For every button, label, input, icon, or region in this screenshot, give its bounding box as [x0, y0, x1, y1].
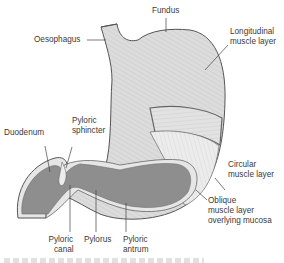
label-pylorus: Pylorus [84, 235, 111, 245]
label-pyloric-antrum: Pyloric antrum [123, 235, 148, 255]
label-pyloric-sphincter: Pyloric sphincter [72, 116, 105, 136]
label-circular-muscle: Circular muscle layer [228, 160, 274, 180]
label-oblique-muscle: Oblique muscle layer overlying mucosa [208, 196, 272, 226]
stomach-diagram: Fundus Oesophagus Longitudinal muscle la… [0, 0, 284, 263]
label-fundus: Fundus [152, 6, 179, 16]
label-pyloric-canal: Pyloric canal [48, 235, 74, 255]
label-longitudinal-muscle: Longitudinal muscle layer [230, 27, 276, 47]
label-duodenum: Duodenum [4, 128, 44, 138]
figure-caption-truncated [4, 258, 204, 263]
label-oesophagus: Oesophagus [34, 35, 80, 45]
